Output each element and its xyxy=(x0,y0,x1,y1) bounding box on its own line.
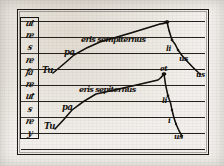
pitch-letter-column: ut re s re fa re ut s re y xyxy=(20,17,39,139)
pitch-letter-0: ut xyxy=(25,19,35,28)
upper-descent-us-final: us xyxy=(196,70,205,79)
staff-rule-2 xyxy=(21,53,205,54)
staff-rule-5 xyxy=(21,101,205,102)
lower-descent-i: i xyxy=(168,116,170,125)
upper-pa-syllable: pa xyxy=(64,47,75,57)
staff-rule-6 xyxy=(21,117,205,118)
pitch-letter-4: fa xyxy=(25,67,34,76)
lower-phrase-text: eris sepiternus xyxy=(79,84,136,94)
upper-descent-li: li xyxy=(166,44,171,53)
pitch-letter-2: s xyxy=(27,43,33,52)
pitch-letter-7: s xyxy=(27,104,33,113)
pitch-letter-8: re xyxy=(25,116,34,125)
lower-tu-syllable: Tu xyxy=(44,121,55,131)
upper-phrase-text: eris sempiternus xyxy=(81,34,145,44)
upper-tu-syllable: Tu xyxy=(42,65,53,75)
pitch-letter-3: re xyxy=(25,55,34,64)
pitch-letter-5: re xyxy=(25,80,34,89)
pitch-letter-1: re xyxy=(25,31,34,40)
staff-rule-0 xyxy=(21,21,205,22)
staff-rule-8 xyxy=(21,149,205,150)
upper-descent-us: us xyxy=(179,54,188,63)
pitch-letter-9: y xyxy=(27,128,33,137)
pitch-letter-6: ut xyxy=(25,92,35,101)
lower-descent-li: li xyxy=(162,96,167,105)
lower-peak-mark: et xyxy=(160,64,167,73)
lower-pa-syllable: pa xyxy=(62,102,73,112)
manuscript-page: ut re s re fa re ut s re y Tu pa eris se… xyxy=(0,0,224,166)
lower-descent-us: us xyxy=(174,132,183,141)
